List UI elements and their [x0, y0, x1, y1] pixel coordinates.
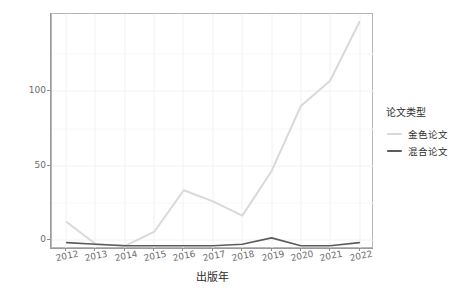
x-tick-label-2014: 2014	[111, 248, 140, 264]
legend-label-gold: 金色论文	[408, 127, 448, 141]
x-tick-label-2016: 2016	[169, 248, 198, 264]
x-tick-label-2012: 2012	[52, 248, 81, 264]
legend: 论文类型 金色论文 混合论文	[386, 104, 464, 160]
x-axis-title: 出版年	[51, 268, 373, 284]
x-tick-label-2013: 2013	[81, 248, 110, 264]
x-tick-label-2017: 2017	[199, 248, 228, 264]
x-tick-label-2019: 2019	[258, 248, 287, 264]
x-tick-label-2022: 2022	[346, 248, 375, 264]
x-tick-label-2015: 2015	[140, 248, 169, 264]
x-tick-label-2021: 2021	[316, 248, 345, 264]
legend-label-hybrid: 混合论文	[408, 144, 448, 158]
legend-item-gold[interactable]: 金色论文	[386, 126, 464, 142]
legend-swatch-hybrid-icon	[386, 144, 403, 158]
legend-item-hybrid[interactable]: 混合论文	[386, 143, 464, 159]
x-tick-label-2020: 2020	[287, 248, 316, 264]
chart-container: APC费用（万元） 0 50 100	[0, 0, 467, 288]
legend-title: 论文类型	[386, 104, 464, 119]
legend-swatch-gold-icon	[386, 127, 403, 141]
x-tick-label-2018: 2018	[228, 248, 257, 264]
